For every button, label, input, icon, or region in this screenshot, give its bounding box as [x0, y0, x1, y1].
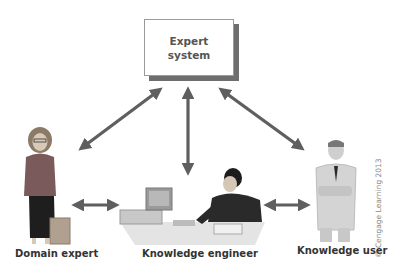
domain-expert-figure — [24, 127, 70, 244]
label-domain-expert: Domain expert — [15, 248, 98, 259]
expert-system-box: Expert system — [144, 19, 234, 76]
label-knowledge-engineer: Knowledge engineer — [142, 248, 258, 259]
copyright-notice: © Cengage Learning 2013 — [374, 158, 383, 258]
knowledge-user-figure — [316, 140, 356, 242]
expert-system-diagram: Expert system Domain expert Knowledge en… — [0, 0, 411, 272]
expert-system-label: Expert system — [168, 34, 210, 62]
knowledge-engineer-figure — [120, 168, 265, 245]
arrow-system-knowledge-user — [223, 91, 300, 147]
arrow-system-domain-expert — [83, 91, 158, 147]
